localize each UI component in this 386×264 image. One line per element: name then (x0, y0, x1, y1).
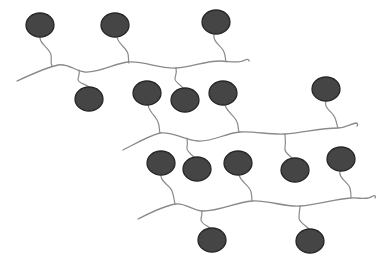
bead-circle (147, 151, 175, 175)
bead-circle (202, 10, 230, 34)
bead-circle (75, 87, 103, 111)
bead-circle (101, 13, 129, 37)
bead-circle (224, 151, 252, 175)
bead-circle (296, 229, 324, 253)
polymer-bead-diagram (0, 0, 386, 264)
bead-circle (198, 228, 226, 252)
bead-circle (209, 81, 237, 105)
bead-circle (327, 147, 355, 171)
bead-circle (281, 158, 309, 182)
bead-circle (133, 81, 161, 105)
bead-circle (183, 157, 211, 181)
diagram-background (0, 0, 386, 264)
bead-circle (26, 13, 54, 37)
bead-circle (312, 77, 340, 101)
bead-circle (171, 88, 199, 112)
